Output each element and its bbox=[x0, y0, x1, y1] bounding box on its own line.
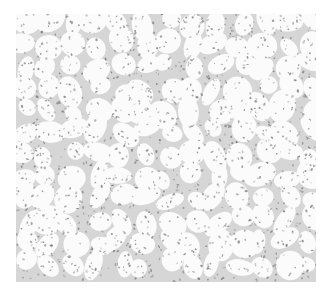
tissue-texture bbox=[16, 14, 316, 282]
histology-micrograph bbox=[16, 14, 316, 282]
